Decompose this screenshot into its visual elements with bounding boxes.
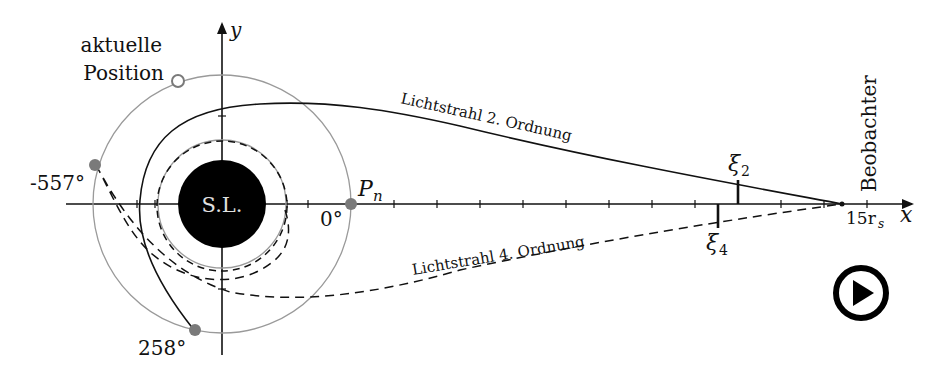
black-hole-label: S.L. [202, 193, 243, 217]
ray-2-label: Lichtstrahl 2. Ordnung [399, 89, 574, 144]
svg-text:15r: 15r [846, 208, 877, 228]
play-button[interactable] [836, 268, 886, 318]
xi2-label: ξ 2 [728, 151, 750, 179]
point-pn-label: P n [357, 176, 383, 205]
svg-text:s: s [878, 217, 884, 231]
current-position-marker[interactable] [172, 75, 184, 87]
svg-text:n: n [373, 187, 383, 205]
current-position-label-2: Position [83, 61, 164, 85]
angle-neg557-label: -557° [30, 171, 85, 195]
ray-4-label: Lichtstrahl 4. Ordnung [411, 232, 587, 279]
point-neg557[interactable] [89, 159, 101, 171]
current-position-label-1: aktuelle [81, 33, 162, 57]
point-pn[interactable] [345, 198, 357, 210]
x-axis-label: x [900, 202, 913, 227]
observer-point [840, 202, 845, 207]
y-axis-label: y [229, 18, 242, 42]
angle-0-label: 0° [320, 207, 343, 231]
light-ray-diagram: S.L. aktuelle Position y x -557° 0° 258°… [0, 0, 945, 373]
point-258[interactable] [189, 324, 201, 336]
xi4-label: ξ 4 [706, 230, 728, 258]
observer-distance-label: 15r s [846, 208, 884, 231]
observer-label: Beobachter [857, 75, 881, 192]
svg-text:4: 4 [719, 242, 728, 258]
svg-text:ξ: ξ [728, 151, 742, 176]
svg-text:2: 2 [741, 163, 750, 179]
angle-258-label: 258° [138, 336, 186, 360]
svg-text:P: P [357, 176, 374, 201]
svg-text:ξ: ξ [706, 230, 720, 255]
